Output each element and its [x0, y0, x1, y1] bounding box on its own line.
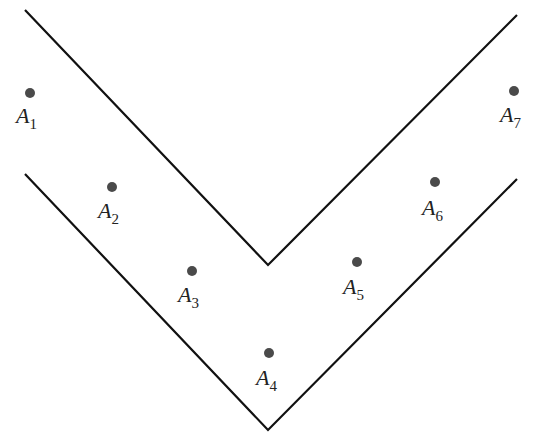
point-label-a3: A3	[176, 282, 199, 311]
point-a7	[509, 86, 519, 96]
point-label-a4: A4	[254, 365, 277, 394]
v-channel-diagram: A1A2A3A4A5A6A7	[0, 0, 546, 446]
point-a4	[264, 348, 274, 358]
point-a3	[187, 266, 197, 276]
point-a2	[107, 182, 117, 192]
point-label-a1: A1	[14, 103, 37, 132]
point-label-a7: A7	[498, 102, 521, 131]
point-label-a6: A6	[420, 195, 443, 224]
point-label-a5: A5	[341, 274, 364, 303]
point-a1	[25, 88, 35, 98]
points-group: A1A2A3A4A5A6A7	[14, 86, 521, 394]
point-label-a2: A2	[96, 198, 119, 227]
point-a6	[430, 177, 440, 187]
outer-v-line	[25, 10, 517, 265]
point-a5	[352, 257, 362, 267]
